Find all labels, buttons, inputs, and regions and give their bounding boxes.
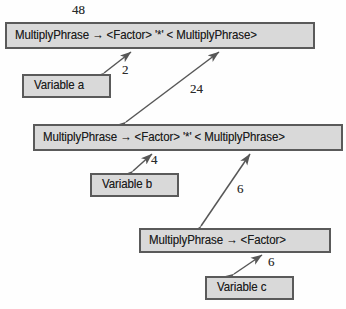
node-production-bottom[interactable]: MultiplyPhrase → <Factor> (139, 228, 331, 253)
edge-weight-6-bottom-var-c: 6 (268, 255, 275, 268)
node-variable-a[interactable]: Variable a (22, 74, 111, 98)
edge-weight-48: 48 (72, 3, 85, 16)
node-variable-c[interactable]: Variable c (205, 276, 294, 300)
edge-prod-top-prod-mid (126, 52, 219, 122)
node-label: MultiplyPhrase → <Factor> (141, 234, 286, 246)
edge-weight-4: 4 (151, 153, 158, 166)
edge-prod-mid-var-b (133, 154, 152, 171)
edge-weight-6-mid-bottom: 6 (237, 182, 244, 195)
node-production-top[interactable]: MultiplyPhrase → <Factor> '*' < Multiply… (5, 22, 315, 49)
edge-weight-24: 24 (190, 82, 203, 95)
node-label: MultiplyPhrase → <Factor> '*' < Multiply… (7, 29, 257, 41)
edge-weight-2: 2 (122, 63, 129, 76)
node-production-middle[interactable]: MultiplyPhrase → <Factor> '*' < Multiply… (33, 124, 343, 151)
node-label: Variable c (207, 282, 266, 294)
diagram-canvas: MultiplyPhrase → <Factor> '*' < Multiply… (0, 0, 346, 309)
node-label: Variable b (92, 179, 152, 191)
node-label: Variable a (24, 80, 84, 92)
node-variable-b[interactable]: Variable b (90, 173, 179, 197)
edge-prod-bottom-var-c (234, 255, 262, 274)
node-label: MultiplyPhrase → <Factor> '*' < Multiply… (35, 131, 285, 143)
